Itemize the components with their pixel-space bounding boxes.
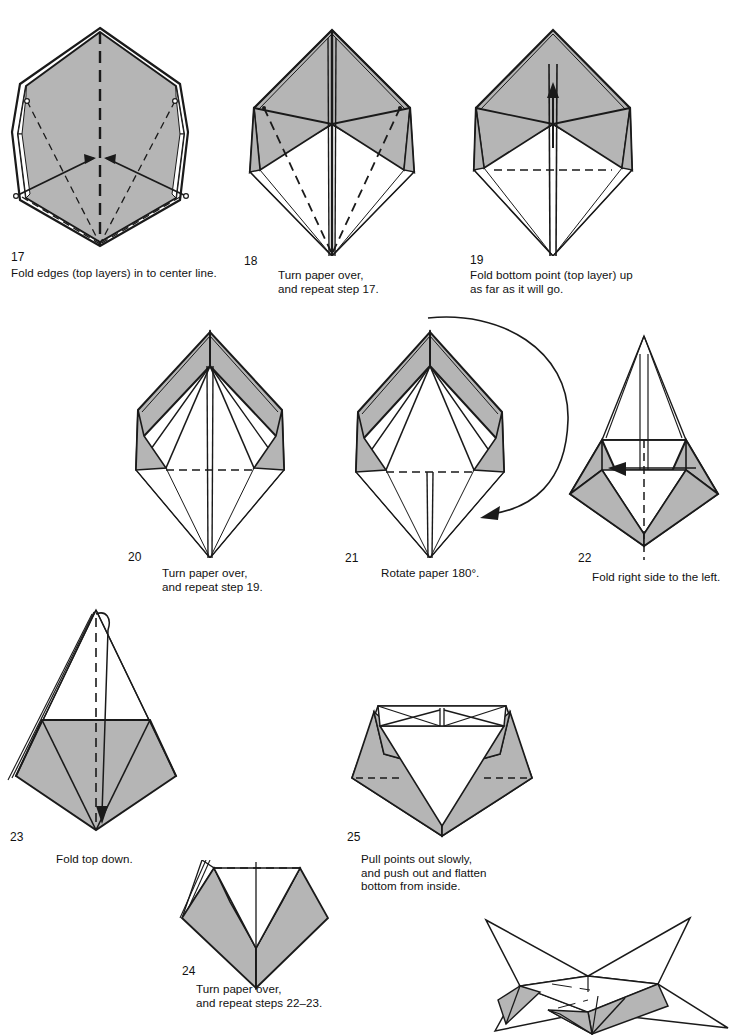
- step-number-20: 20: [128, 550, 142, 564]
- step-number-18: 18: [244, 254, 258, 268]
- step-caption-18: Turn paper over, and repeat step 17.: [278, 268, 488, 295]
- step-caption-19: Fold bottom point (top layer) up as far …: [470, 268, 720, 295]
- step-caption-24: Turn paper over, and repeat steps 22–23.: [196, 982, 406, 1009]
- figure-step-19: [458, 24, 648, 256]
- step-caption-25: Pull points out slowly, and push out and…: [361, 852, 581, 893]
- step-caption-22: Fold right side to the left.: [592, 570, 735, 584]
- step-number-23: 23: [10, 830, 24, 844]
- step-number-17: 17: [11, 250, 25, 264]
- step-number-22: 22: [578, 551, 592, 565]
- figure-final-star: [440, 888, 735, 1035]
- figure-step-20: [122, 326, 298, 558]
- origami-instruction-page: 17 Fold edges (top layers) in to center …: [0, 0, 735, 1035]
- figure-step-25: [342, 684, 542, 844]
- step-caption-21: Rotate paper 180°.: [381, 566, 581, 580]
- step-number-21: 21: [345, 551, 359, 565]
- step-caption-17: Fold edges (top layers) in to center lin…: [11, 266, 241, 280]
- figure-step-22: [556, 334, 732, 562]
- step-number-25: 25: [347, 830, 361, 844]
- figure-step-23: [2, 604, 190, 832]
- step-number-19: 19: [470, 253, 484, 267]
- figure-step-18: [232, 24, 432, 256]
- figure-step-17: [0, 22, 210, 252]
- step-caption-20: Turn paper over, and repeat step 19.: [162, 566, 372, 593]
- step-number-24: 24: [182, 964, 196, 978]
